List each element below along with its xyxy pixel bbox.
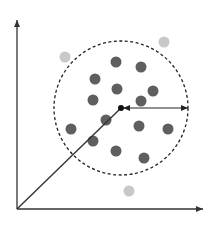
inlier-point bbox=[66, 124, 77, 135]
inlier-point bbox=[112, 84, 123, 95]
axes bbox=[17, 20, 203, 209]
inlier-point bbox=[90, 74, 101, 85]
inlier-point bbox=[134, 121, 145, 132]
center-point bbox=[118, 105, 124, 111]
inlier-point bbox=[88, 95, 99, 106]
inlier-point bbox=[139, 153, 150, 164]
diagram-canvas bbox=[0, 0, 216, 230]
outlier-point bbox=[60, 52, 71, 63]
inlier-point bbox=[148, 86, 159, 97]
inlier-point bbox=[111, 146, 122, 157]
scatter-diagram bbox=[0, 0, 216, 230]
vector-from-origin bbox=[17, 108, 121, 209]
inlier-point bbox=[88, 136, 99, 147]
inlier-point bbox=[136, 96, 147, 107]
inlier-point bbox=[163, 124, 174, 135]
inlier-point bbox=[111, 57, 122, 68]
inlier-point bbox=[136, 62, 147, 73]
inlier-point bbox=[101, 115, 112, 126]
outlier-point bbox=[124, 186, 135, 197]
outlier-point bbox=[159, 37, 170, 48]
